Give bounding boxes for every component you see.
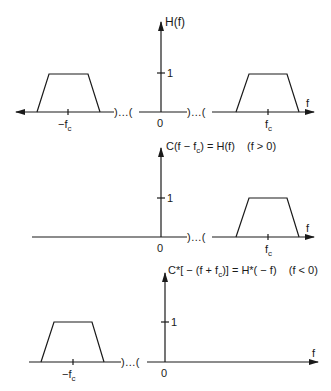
- trapezoid-positive: [236, 74, 299, 112]
- origin-label: 0: [161, 367, 167, 379]
- plot3-labels: C*[ − (f + fc)] = H*( − f) (f < 0) 1 0 f…: [62, 264, 318, 383]
- tick-one-label: 1: [167, 67, 173, 79]
- neg-fc-label: −fc: [62, 368, 75, 383]
- break-right: )…(: [187, 231, 206, 243]
- trapezoid-positive: [236, 198, 299, 237]
- ylabel-c-negative: C*[ − (f + fc)] = H*( − f) (f < 0): [168, 264, 318, 279]
- trapezoid-negative: [41, 322, 104, 362]
- ylabel-c-positive: C(f − fc) = H(f) (f > 0): [166, 140, 276, 155]
- xlabel-f: f: [306, 222, 310, 234]
- pos-fc-label: fc: [265, 118, 272, 133]
- break-left: )…(: [114, 106, 133, 118]
- xlabel-f: f: [312, 347, 316, 359]
- tick-one-label: 1: [167, 192, 173, 204]
- ylabel-h-of-f: H(f): [165, 15, 185, 29]
- break-left: )…(: [121, 356, 140, 368]
- neg-fc-label: −fc: [58, 118, 71, 133]
- plot-h-of-f: [16, 22, 314, 115]
- break-right: )…(: [187, 106, 206, 118]
- origin-label: 0: [157, 242, 163, 254]
- origin-label: 0: [157, 117, 163, 129]
- pos-fc-label: fc: [265, 243, 272, 258]
- spectrum-diagram: H(f) 1 0 f )…( )…( −fc fc C(f − fc) = H(…: [0, 0, 331, 391]
- trapezoid-negative: [37, 74, 100, 112]
- xlabel-f: f: [306, 97, 310, 109]
- tick-one-label: 1: [171, 316, 177, 328]
